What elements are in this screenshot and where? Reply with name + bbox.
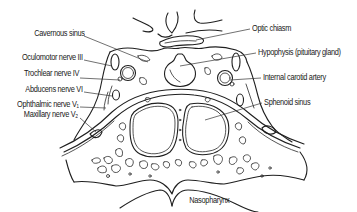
left-sphenoid-sinus	[130, 103, 178, 157]
label-ophthalmic-nerve: Ophthalmic nerve V₁	[17, 99, 79, 109]
label-abducens-nerve: Abducens nerve VI	[26, 84, 83, 94]
hypophysis-shape	[165, 54, 196, 87]
label-oculomotor-nerve: Oculomotor nerve III	[22, 52, 83, 62]
label-nasopharynx: Nasopharynx	[189, 195, 229, 205]
right-sphenoid-sinus	[183, 103, 229, 155]
label-cavernous-sinus: Cavernous sinus	[34, 28, 85, 38]
label-hypophysis: Hypophysis (pituitary gland)	[258, 47, 341, 57]
label-optic-chiasm: Optic chiasm	[252, 23, 291, 33]
label-internal-carotid-artery: Internal carotid artery	[263, 72, 326, 82]
brain-structures	[133, 10, 222, 37]
septum	[179, 109, 181, 141]
label-sphenoid-sinus: Sphenoid sinus	[264, 97, 310, 107]
lower-boundary	[66, 152, 307, 212]
label-maxillary-nerve: Maxillary nerve V₂	[24, 109, 78, 119]
label-trochlear-nerve: Trochlear nerve IV	[24, 68, 79, 78]
